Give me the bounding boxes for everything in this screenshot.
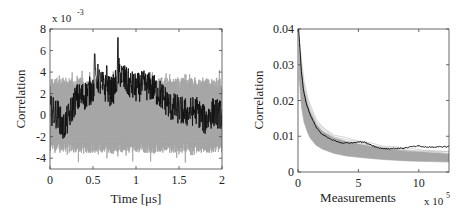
x-tick-label: 0 <box>295 176 301 190</box>
y-tick-label: 0.01 <box>273 129 294 143</box>
left-x-axis-label: Time [μs] <box>111 191 162 206</box>
y-tick-label: 2 <box>40 87 46 101</box>
x-tick-label: 10 <box>413 176 425 190</box>
y-tick-label: 6 <box>40 44 46 58</box>
y-tick-label: -4 <box>36 151 46 165</box>
figure-svg: -4-202468 00.511.52 Time [μs] Correlatio… <box>0 0 467 218</box>
y-tick-label: 0 <box>40 108 46 122</box>
left-y-axis-label: Correlation <box>13 69 28 129</box>
y-tick-label: -2 <box>36 130 46 144</box>
right-x-tick-labels: 0510 <box>295 29 425 190</box>
right-chart-measurements-correlation: 00.010.020.030.04 0510 Measurements Corr… <box>251 22 450 207</box>
x-tick-label: 1 <box>133 173 139 187</box>
y-tick-label: 0.03 <box>273 58 294 72</box>
left-plot-area <box>50 38 222 163</box>
x-tick-label: 2 <box>219 173 225 187</box>
figure: -4-202468 00.511.52 Time [μs] Correlatio… <box>0 0 467 218</box>
y-tick-label: 4 <box>40 65 46 79</box>
left-y-exponent-base: x 10 <box>52 12 72 24</box>
left-chart-time-correlation: -4-202468 00.511.52 Time [μs] Correlatio… <box>13 8 225 206</box>
right-y-axis-label: Correlation <box>251 70 266 130</box>
x-tick-label: 0.5 <box>86 173 101 187</box>
right-x-exponent-base: x 10 <box>424 195 444 207</box>
x-tick-label: 0 <box>47 173 53 187</box>
y-tick-label: 8 <box>40 22 46 36</box>
y-tick-label: 0 <box>288 165 294 179</box>
x-tick-label: 5 <box>355 176 361 190</box>
x-tick-label: 1.5 <box>172 173 187 187</box>
y-tick-label: 0.04 <box>273 22 294 36</box>
right-plot-area <box>299 29 449 162</box>
right-x-exponent-power: 5 <box>446 191 450 200</box>
right-x-axis-label: Measurements <box>320 190 396 205</box>
y-tick-label: 0.02 <box>273 94 294 108</box>
left-y-exponent-power: -3 <box>77 8 84 17</box>
